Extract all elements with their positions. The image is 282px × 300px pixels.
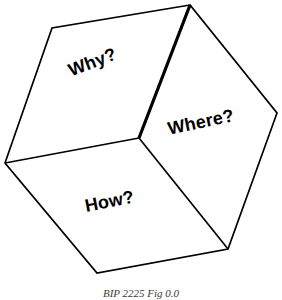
figure-caption: BIP 2225 Fig 0.0	[0, 287, 282, 299]
cube-outline-path	[5, 5, 277, 273]
cube-edge-center-to-bottom-right	[139, 138, 228, 249]
cube-edge-left-to-center	[5, 138, 139, 163]
cube-figure: Why? Where? How? BIP 2225 Fig 0.0	[0, 0, 282, 300]
cube-drawing	[0, 0, 282, 300]
